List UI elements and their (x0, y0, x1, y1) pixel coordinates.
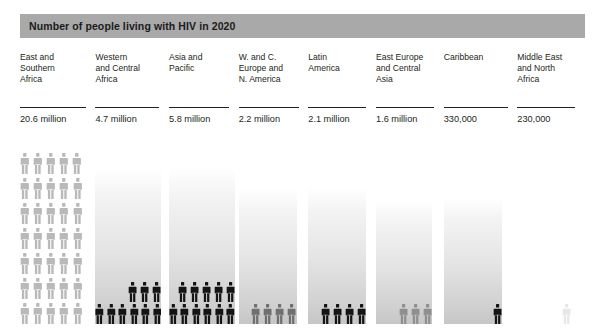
person-icon (275, 304, 284, 324)
pictogram-row (95, 282, 161, 302)
column-header: Middle East and North Africa230,000 (517, 52, 579, 124)
person-icon (169, 304, 178, 324)
person-icon (59, 303, 69, 324)
person-icon (357, 304, 366, 324)
pictogram-row (376, 304, 432, 324)
column-header: Asia and Pacific5.8 million (169, 52, 233, 124)
person-icon (345, 304, 354, 324)
person-icon (72, 153, 82, 174)
person-icon (140, 282, 149, 302)
person-icon (562, 304, 571, 324)
region-label: East Europe and Central Asia (376, 52, 438, 86)
chart-column: Caribbean330,000 (444, 52, 518, 324)
chart-column: East Europe and Central Asia1.6 million (376, 52, 444, 324)
pictogram-row (20, 253, 82, 274)
region-label: Asia and Pacific (169, 52, 233, 74)
pictogram-row (20, 228, 82, 249)
header-divider (517, 107, 575, 108)
person-icon (20, 153, 30, 174)
person-icon (73, 278, 83, 299)
pictogram-row (169, 304, 235, 324)
pictogram-group (95, 282, 161, 324)
person-icon (33, 153, 43, 174)
column-header: Latin America2.1 million (308, 52, 370, 124)
person-icon (333, 304, 342, 324)
column-header: W. and C. Europe and N. America2.2 milli… (239, 52, 303, 124)
column-header: East and Southern Africa20.6 million (20, 52, 89, 124)
pictogram-group (308, 304, 366, 324)
person-icon (190, 282, 199, 302)
pictogram-row (169, 282, 235, 302)
person-icon (46, 153, 56, 174)
person-icon (95, 304, 104, 324)
person-icon (128, 282, 137, 302)
pictogram-group (239, 304, 297, 324)
column-header: East Europe and Central Asia1.6 million (376, 52, 438, 124)
header-divider (20, 107, 86, 108)
column-header: Caribbean330,000 (444, 52, 512, 124)
column-header: Western and Central Africa4.7 million (95, 52, 163, 124)
column-plot (169, 128, 233, 324)
pictogram-row (95, 304, 161, 324)
person-icon (107, 304, 116, 324)
person-icon (180, 304, 189, 324)
pictogram-row (444, 304, 502, 324)
person-icon (46, 178, 56, 199)
person-icon (33, 203, 43, 224)
person-icon (214, 282, 223, 302)
column-plot (517, 128, 579, 324)
header-divider (376, 107, 434, 108)
pictogram-row (20, 303, 82, 324)
chart-column: W. and C. Europe and N. America2.2 milli… (239, 52, 309, 324)
value-label: 5.8 million (169, 114, 210, 124)
column-plot (95, 128, 163, 324)
person-icon (192, 304, 201, 324)
person-icon (178, 282, 187, 302)
person-icon (141, 304, 150, 324)
person-icon (33, 303, 43, 324)
person-icon (73, 228, 83, 249)
region-label: Middle East and North Africa (517, 52, 579, 86)
header-divider (239, 107, 299, 108)
person-icon (263, 304, 272, 324)
region-label: W. and C. Europe and N. America (239, 52, 303, 86)
person-icon (423, 304, 432, 324)
person-icon (33, 253, 43, 274)
person-icon (20, 278, 30, 299)
person-icon (399, 304, 408, 324)
region-label: Caribbean (444, 52, 512, 63)
person-icon (152, 282, 161, 302)
person-icon (59, 228, 69, 249)
pictogram-group (169, 282, 235, 324)
pictogram-row (20, 178, 82, 199)
person-icon (226, 282, 235, 302)
person-icon (130, 304, 139, 324)
person-icon (59, 253, 69, 274)
header-divider (95, 107, 159, 108)
title-bar: Number of people living with HIV in 2020 (20, 14, 585, 38)
chart-column: East and Southern Africa20.6 million (20, 52, 95, 324)
person-icon (73, 203, 83, 224)
chart-column: Latin America2.1 million (308, 52, 376, 324)
person-icon (153, 304, 162, 324)
column-plot (308, 128, 370, 324)
person-icon (46, 253, 56, 274)
person-icon (73, 303, 83, 324)
column-plot (20, 128, 89, 324)
person-icon (59, 203, 69, 224)
region-label: Western and Central Africa (95, 52, 163, 86)
value-label: 2.2 million (239, 114, 280, 124)
person-icon (251, 304, 260, 324)
pictogram-group (20, 153, 82, 324)
page-title: Number of people living with HIV in 2020 (20, 20, 235, 32)
person-icon (46, 203, 56, 224)
chart-column: Asia and Pacific5.8 million (169, 52, 239, 324)
person-icon (287, 304, 296, 324)
person-icon (46, 278, 56, 299)
pictogram-row (20, 203, 82, 224)
person-icon (321, 304, 330, 324)
header-divider (169, 107, 229, 108)
person-icon (493, 304, 502, 324)
pictogram-row (239, 304, 297, 324)
person-icon (73, 178, 83, 199)
